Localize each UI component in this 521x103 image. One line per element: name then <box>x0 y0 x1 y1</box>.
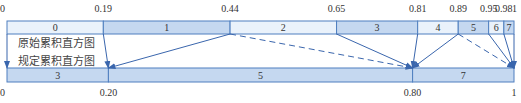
original-cdf-ticks: 00.190.440.650.810.890.950.981 <box>0 3 517 14</box>
specified-segment-label: 5 <box>258 70 263 81</box>
original-segment-label: 2 <box>281 22 286 33</box>
specified-tick-label: 0.80 <box>404 87 422 98</box>
specified-tick-label: 1 <box>512 87 517 98</box>
mapping-arrow <box>489 34 514 68</box>
specified-histogram-caption: 规定累积直方图 <box>18 54 95 68</box>
specified-tick-label: 0 <box>0 87 5 98</box>
histogram-specification-diagram: 00.190.440.650.810.890.950.981 01234567 … <box>0 0 521 103</box>
original-histogram-caption: 原始累积直方图 <box>18 36 95 50</box>
specified-cdf-bar: 357 <box>7 68 514 82</box>
specified-cdf-ticks: 00.200.801 <box>0 87 517 98</box>
original-segment-label: 0 <box>53 22 58 33</box>
mapping-arrow <box>230 34 413 68</box>
original-tick-label: 1 <box>512 3 517 14</box>
original-segment-label: 7 <box>506 22 511 33</box>
original-segment-label: 1 <box>164 22 169 33</box>
original-segment-label: 4 <box>435 22 440 33</box>
specified-segment-label: 3 <box>55 70 60 81</box>
original-segment-label: 6 <box>494 22 499 33</box>
original-cdf-bar: 01234567 <box>7 21 514 34</box>
original-tick-label: 0.65 <box>328 3 346 14</box>
mapping-arrow <box>108 34 230 68</box>
specified-tick-label: 0.20 <box>100 87 118 98</box>
original-tick-label: 0 <box>0 3 5 14</box>
original-segment-label: 3 <box>375 22 380 33</box>
original-segment-label: 5 <box>471 22 476 33</box>
original-tick-label: 0.19 <box>95 3 113 14</box>
original-tick-label: 0.81 <box>409 3 427 14</box>
original-tick-label: 0.98 <box>495 3 513 14</box>
specified-segment-label: 7 <box>461 70 466 81</box>
original-tick-label: 0.44 <box>221 3 239 14</box>
mapping-arrow <box>103 34 108 68</box>
mapping-arrow <box>413 34 418 68</box>
mapping-arrow <box>413 34 459 68</box>
mapping-arrow <box>337 34 413 68</box>
original-tick-label: 0.89 <box>449 3 467 14</box>
